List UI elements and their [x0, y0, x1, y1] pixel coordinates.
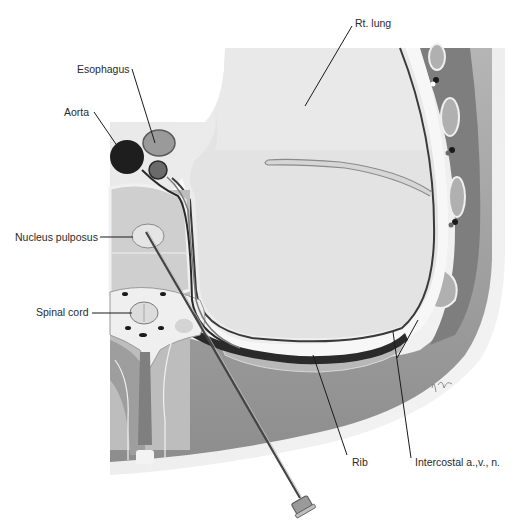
- label-rib: Rib: [352, 456, 368, 468]
- label-intercostal: Intercostal a.,v., n.: [415, 456, 500, 468]
- anatomical-diagram: Esophagus Aorta Rt. lung Nucleus pulposu…: [0, 0, 514, 525]
- azygos-vein: [149, 161, 167, 179]
- foramen-dot: [160, 292, 166, 296]
- needle-hub: [289, 494, 316, 518]
- foramen-dot: [122, 292, 128, 296]
- foramen-dot: [125, 326, 131, 330]
- aorta: [110, 140, 144, 174]
- label-nucleus-pulposus: Nucleus pulposus: [15, 231, 98, 243]
- spinous-tip: [136, 450, 154, 464]
- rib-section: [429, 44, 445, 70]
- intercostal-vessel: [431, 82, 436, 87]
- spinous-process: [138, 352, 152, 445]
- rib-section: [449, 177, 465, 217]
- label-aorta: Aorta: [64, 106, 89, 118]
- transverse-process: [174, 318, 194, 334]
- intercostal-vessel: [449, 223, 454, 228]
- foramen-dot: [139, 333, 147, 337]
- label-esophagus: Esophagus: [77, 63, 130, 75]
- rib-section: [441, 98, 459, 136]
- label-rt-lung: Rt. lung: [355, 17, 391, 29]
- lung-upper-shade: [215, 48, 432, 150]
- intercostal-vessel: [446, 151, 451, 156]
- label-spinal-cord: Spinal cord: [36, 306, 89, 318]
- esophagus: [143, 130, 175, 156]
- foramen-dot: [158, 326, 164, 330]
